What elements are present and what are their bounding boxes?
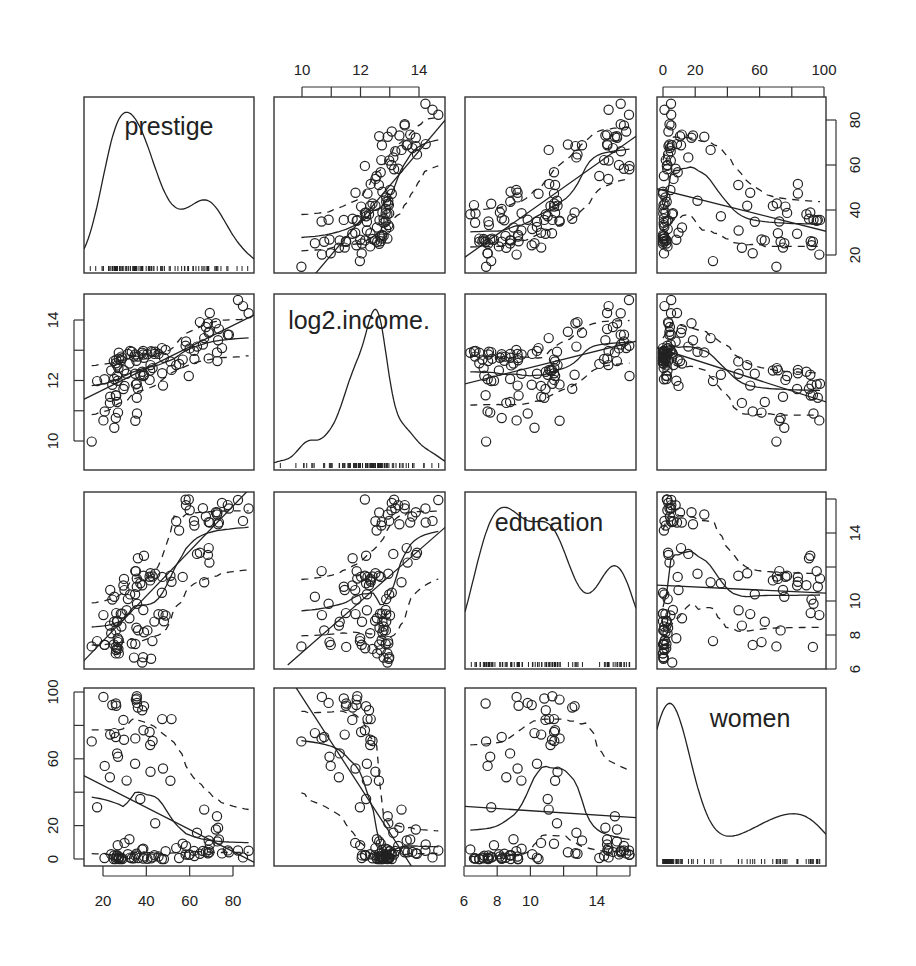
data-point <box>351 188 360 197</box>
data-point <box>497 413 506 422</box>
data-point <box>111 413 120 422</box>
axis-tick-label: 12 <box>44 372 61 389</box>
data-point <box>143 626 152 635</box>
data-point <box>397 578 406 587</box>
axis-tick-label: 60 <box>751 61 768 78</box>
data-point <box>113 408 122 417</box>
data-point <box>624 110 633 119</box>
data-point <box>148 637 157 646</box>
data-point <box>99 611 108 620</box>
data-point <box>244 504 253 513</box>
data-point <box>389 549 398 558</box>
data-point <box>244 846 253 855</box>
data-point <box>132 393 141 402</box>
data-point <box>527 241 536 250</box>
spread-lower-line <box>663 215 820 247</box>
data-point <box>688 520 697 529</box>
data-point <box>326 761 335 770</box>
data-point <box>750 217 759 226</box>
data-point <box>178 572 187 581</box>
diag-label-education: education <box>495 508 603 536</box>
spread-upper-line <box>470 321 629 359</box>
data-point <box>793 229 802 238</box>
data-point <box>151 819 160 828</box>
data-point <box>506 749 515 758</box>
data-point <box>674 381 683 390</box>
data-point <box>687 508 696 517</box>
axis-tick-label: 80 <box>225 892 242 909</box>
data-point <box>487 199 496 208</box>
data-point <box>595 171 604 180</box>
data-point <box>544 805 553 814</box>
data-point <box>708 377 717 386</box>
data-point <box>110 423 119 432</box>
data-point <box>776 413 785 422</box>
data-point <box>362 759 371 768</box>
axis-tick-label: 0 <box>44 855 61 863</box>
data-point <box>244 309 253 318</box>
loess-smooth-line <box>92 792 249 843</box>
data-point <box>603 308 612 317</box>
data-point <box>421 518 430 527</box>
data-point <box>813 582 822 591</box>
data-point <box>514 391 523 400</box>
data-point <box>540 694 549 703</box>
data-point <box>428 516 437 525</box>
axis-tick-label: 100 <box>44 679 61 704</box>
diag-label-women: women <box>709 704 791 732</box>
data-point <box>481 699 490 708</box>
data-point <box>812 567 821 576</box>
panel-contents <box>76 99 836 929</box>
data-point <box>166 776 175 785</box>
data-point <box>502 773 511 782</box>
axis-tick-label: 6 <box>846 665 863 673</box>
data-point <box>482 737 491 746</box>
data-point <box>563 327 572 336</box>
data-point <box>471 218 480 227</box>
data-point <box>802 581 811 590</box>
axis-tick-label: 20 <box>846 247 863 264</box>
spread-lower-line <box>663 604 820 640</box>
data-point <box>603 325 612 334</box>
data-point <box>684 153 693 162</box>
data-point <box>87 737 96 746</box>
data-point <box>375 132 384 141</box>
data-point <box>310 729 319 738</box>
data-point <box>530 729 539 738</box>
data-point <box>184 371 193 380</box>
data-point <box>552 819 561 828</box>
data-point <box>434 495 443 504</box>
data-point <box>395 520 404 529</box>
data-point <box>374 776 383 785</box>
data-point <box>217 498 226 507</box>
data-point <box>757 638 766 647</box>
scatterplot-matrix: 1012140206010020406080681014101214020601… <box>0 0 916 966</box>
data-point <box>93 803 102 812</box>
data-point <box>133 554 142 563</box>
data-point <box>815 416 824 425</box>
data-point <box>750 590 759 599</box>
data-point <box>530 239 539 248</box>
diag-label-log2-income: log2.income. <box>288 306 430 334</box>
data-point <box>806 609 815 618</box>
data-point <box>355 803 364 812</box>
data-point <box>672 634 681 643</box>
data-point <box>181 841 190 850</box>
data-point <box>469 201 478 210</box>
data-point <box>536 838 545 847</box>
data-point <box>760 397 769 406</box>
data-point <box>684 549 693 558</box>
data-point <box>734 180 743 189</box>
data-point <box>544 145 553 154</box>
data-point <box>706 334 715 343</box>
data-point <box>377 141 386 150</box>
data-point <box>716 370 725 379</box>
data-point <box>158 715 167 724</box>
data-point <box>530 423 539 432</box>
data-point <box>549 839 558 848</box>
data-point <box>743 569 752 578</box>
data-point <box>212 812 221 821</box>
data-point <box>772 437 781 446</box>
data-point <box>486 752 495 761</box>
data-point <box>748 640 757 649</box>
